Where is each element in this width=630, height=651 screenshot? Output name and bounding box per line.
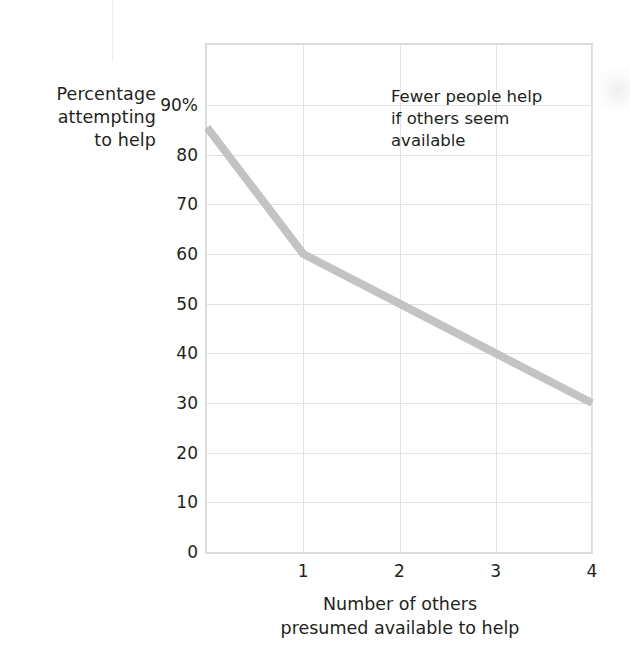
y-axis-tick-label: 90% [120, 97, 198, 114]
y-axis-tick-label: 20 [120, 445, 198, 462]
x-axis-title-line-1: Number of others [150, 592, 630, 616]
y-axis-tick-label: 10 [120, 494, 198, 511]
scan-artifact-right-blob [600, 70, 630, 110]
y-axis-tick-label: 30 [120, 395, 198, 412]
y-axis-tick-label: 40 [120, 345, 198, 362]
chart-annotation: Fewer people help if others seem availab… [391, 86, 542, 152]
x-axis-tick-label: 3 [476, 563, 516, 580]
annotation-line-2: if others seem [391, 108, 542, 130]
annotation-line-3: available [391, 130, 542, 152]
y-axis-title: Percentage attempting to help [18, 83, 156, 152]
series-polyline [207, 127, 592, 403]
x-axis-title-line-2: presumed available to help [150, 616, 630, 640]
y-axis-tick-label: 70 [120, 196, 198, 213]
y-axis-tick-label: 0 [120, 544, 198, 561]
y-axis-tick-label: 60 [120, 246, 198, 263]
chart-figure: Percentage attempting to help 90%8070605… [0, 0, 630, 651]
scan-artifact-left-edge [112, 0, 113, 62]
x-axis-title: Number of others presumed available to h… [150, 592, 630, 640]
x-axis-tick-label: 2 [380, 563, 420, 580]
x-axis-tick-label: 4 [572, 563, 612, 580]
y-axis-tick-label: 80 [120, 147, 198, 164]
annotation-line-1: Fewer people help [391, 86, 542, 108]
y-axis-tick-label: 50 [120, 296, 198, 313]
x-axis-tick-label: 1 [283, 563, 323, 580]
